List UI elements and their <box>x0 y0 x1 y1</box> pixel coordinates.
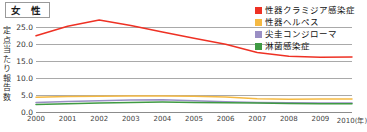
y-axis-tick-label: 5.0 <box>21 90 33 99</box>
legend-item[interactable]: 性器ヘルペス <box>255 17 355 28</box>
x-axis-tick-label: 2000 <box>27 115 45 123</box>
y-axis-label-char: 定 <box>1 26 12 36</box>
legend-swatch-icon <box>255 19 262 26</box>
x-axis-tick-label: 2008 <box>280 115 298 123</box>
y-axis-tick-label: 25.0 <box>16 22 33 31</box>
legend-item[interactable]: 淋菌感染症 <box>255 41 355 52</box>
x-axis-tick-label: 2006 <box>217 115 235 123</box>
page-title: 女 性 <box>5 2 50 18</box>
x-axis-tick-label: 2001 <box>59 115 77 123</box>
x-axis-tick-label: 2005 <box>185 115 203 123</box>
y-axis-label-char: 点 <box>1 36 12 46</box>
legend: 性器クラミジア感染症性器ヘルペス尖圭コンジローマ淋菌感染症 <box>255 5 355 52</box>
y-axis-label-char: た <box>1 55 12 65</box>
legend-label: 性器ヘルペス <box>265 17 319 28</box>
y-axis-label-char: り <box>1 64 12 74</box>
legend-swatch-icon <box>255 43 262 50</box>
x-axis-tick-label: 2004 <box>153 115 171 123</box>
legend-item[interactable]: 性器クラミジア感染症 <box>255 5 355 16</box>
legend-swatch-icon <box>255 31 262 38</box>
y-axis-label-char: 当 <box>1 45 12 55</box>
y-axis-tick-label: 10.0 <box>16 73 33 82</box>
x-axis-tick-label: 2002 <box>90 115 108 123</box>
legend-label: 淋菌感染症 <box>265 41 310 52</box>
x-axis-tick-label: 2009 <box>311 115 329 123</box>
x-axis-tick-label: 2003 <box>122 115 140 123</box>
y-axis-label-char: 数 <box>1 93 12 103</box>
legend-label: 性器クラミジア感染症 <box>265 5 355 16</box>
y-axis-label: 定点当たり報告数 <box>1 26 12 102</box>
y-axis-tick-label: 20.0 <box>16 39 33 48</box>
x-axis-line <box>36 112 352 113</box>
y-axis-tick-label: 15.0 <box>16 56 33 65</box>
x-axis-tick-label: 2007 <box>248 115 266 123</box>
y-axis-label-char: 報 <box>1 74 12 84</box>
legend-label: 尖圭コンジローマ <box>265 29 337 40</box>
x-axis-tick-label: 2010(年) <box>337 115 367 125</box>
series-line <box>36 96 352 99</box>
legend-item[interactable]: 尖圭コンジローマ <box>255 29 355 40</box>
y-axis-label-char: 告 <box>1 83 12 93</box>
legend-swatch-icon <box>255 7 262 14</box>
